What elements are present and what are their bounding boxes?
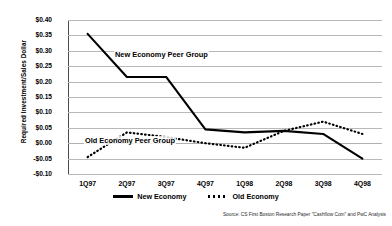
legend-swatch-dotted-icon: [208, 195, 228, 197]
gridline: [68, 174, 382, 175]
y-axis-tick-label: $0.10: [0, 108, 52, 115]
y-axis-tick-label: -$0.05: [0, 155, 52, 162]
annotation-old-economy-peer-group: Old Economy Peer Group: [84, 136, 176, 145]
annotation-new-economy-peer-group: New Economy Peer Group: [114, 50, 209, 59]
y-axis-tick-label: -$0.10: [0, 170, 52, 177]
y-axis-tick-label: $0.00: [0, 139, 52, 146]
legend-item-new-economy: New Economy: [113, 192, 186, 201]
legend-swatch-solid-icon: [113, 195, 133, 197]
legend-label-old-economy: Old Economy: [232, 192, 278, 201]
plot-area: $0.40$0.35$0.30$0.25$0.20$0.15$0.10$0.05…: [68, 20, 382, 174]
legend-label-new-economy: New Economy: [137, 192, 186, 201]
legend-item-old-economy: Old Economy: [208, 192, 278, 201]
series-lines: [68, 20, 382, 174]
y-axis-tick-label: $0.25: [0, 62, 52, 69]
y-axis-tick-label: $0.35: [0, 31, 52, 38]
y-axis-tick-label: $0.30: [0, 47, 52, 54]
x-axis-tick-label: 4Q98: [339, 180, 385, 187]
y-axis-tick-label: $0.40: [0, 16, 52, 23]
source-note: Source: CS First Boston Research Paper "…: [0, 212, 386, 217]
y-axis-tick-label: $0.05: [0, 124, 52, 131]
y-axis-tick-label: $0.20: [0, 78, 52, 85]
chart-container: Required Investment/Sales Dollar $0.40$0…: [0, 0, 392, 226]
chart-legend: New Economy Old Economy: [0, 192, 392, 201]
y-axis-tick-label: $0.15: [0, 93, 52, 100]
